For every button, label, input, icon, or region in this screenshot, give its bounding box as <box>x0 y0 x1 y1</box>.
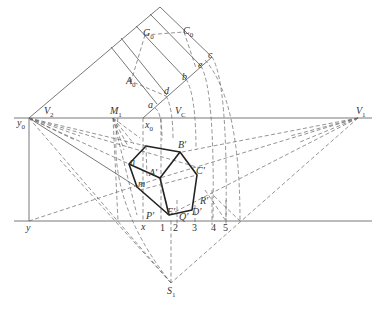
perspective-diagram: G0 C0 A0 a b c d e V2 V1 VC M1 x0 y0 x y… <box>0 0 382 309</box>
label-V1: V1 <box>356 106 366 119</box>
label-n: n <box>130 157 135 167</box>
label-V2: V2 <box>44 106 54 119</box>
label-e: e <box>198 60 202 70</box>
label-M1: M1 <box>110 106 122 119</box>
label-Q-prime: Q′ <box>179 212 188 222</box>
diagram-lines <box>0 0 382 309</box>
label-x: x <box>141 222 145 232</box>
label-b: b <box>182 72 187 82</box>
label-x0: x0 <box>145 120 153 133</box>
label-A-prime: A′ <box>149 168 157 178</box>
tick-4: 4 <box>211 223 216 233</box>
label-y: y <box>26 223 30 233</box>
label-C-prime: C′ <box>196 166 205 176</box>
rays-from-M1 <box>113 118 140 221</box>
label-A0: A0 <box>126 76 136 89</box>
label-a: a <box>148 100 153 110</box>
plan-square <box>29 7 212 118</box>
label-R-prime: R′ <box>200 196 208 206</box>
label-D-prime: D′ <box>192 207 201 217</box>
label-d: d <box>164 86 169 96</box>
label-m: m <box>138 179 145 189</box>
label-C0: C0 <box>183 26 193 39</box>
label-y0: y0 <box>17 118 25 131</box>
label-E-prime: E′ <box>167 207 175 217</box>
label-G0: G0 <box>143 28 154 41</box>
label-P-prime: P′ <box>146 211 154 221</box>
tick-1: 1 <box>160 223 165 233</box>
tick-3: 3 <box>192 223 197 233</box>
rays-from-V2 <box>29 118 200 283</box>
tick-5: 5 <box>223 223 228 233</box>
tick-2: 2 <box>173 223 178 233</box>
label-VC: VC <box>175 106 186 119</box>
label-B-prime: B′ <box>178 140 186 150</box>
label-S1: S1 <box>167 286 176 299</box>
label-c: c <box>208 50 212 60</box>
rays-from-V1 <box>160 118 358 283</box>
